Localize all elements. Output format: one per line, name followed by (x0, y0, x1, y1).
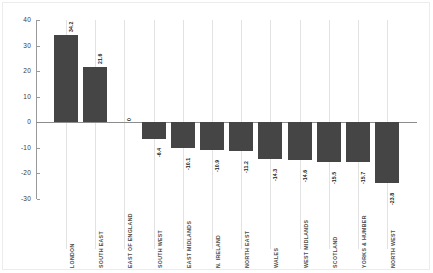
bar-value-label: -11.2 (243, 161, 249, 173)
y-axis-tick-label: -30 (9, 195, 31, 202)
category-label: NORTH EAST (244, 231, 250, 268)
plot-area (36, 20, 429, 199)
category-label: SOUTH WEST (157, 230, 163, 268)
y-axis-tick-label: -10 (9, 144, 31, 151)
y-axis-tick-label: 30 (9, 42, 31, 49)
bar (83, 67, 107, 122)
bar-value-label: -23.8 (389, 193, 395, 205)
bar-value-label: -6.4 (156, 148, 162, 157)
bar-chart: 403020100-10-20-30 34.221.60-6.4-10.1-10… (0, 0, 433, 273)
category-label: LONDON (69, 243, 75, 268)
y-axis-tick-label: 40 (9, 16, 31, 23)
bar (229, 122, 253, 151)
category-label: WEST MIDLANDS (303, 220, 309, 268)
category-label: SOUTH EAST (98, 231, 104, 268)
y-axis-tick-label: 10 (9, 93, 31, 100)
bar (142, 122, 166, 138)
category-label: EAST MIDLANDS (186, 221, 192, 268)
bar (258, 122, 282, 159)
bar-value-label: -10.1 (185, 158, 191, 170)
gridline (124, 20, 125, 249)
y-axis-tick-mark (37, 199, 40, 200)
bar-value-label: 34.2 (68, 21, 74, 32)
bar-value-label: -15.5 (331, 172, 337, 184)
y-axis-tick-label: -20 (9, 169, 31, 176)
bar-value-label: 0 (126, 118, 132, 121)
category-label: NORTH WEST (390, 230, 396, 268)
bar (288, 122, 312, 159)
category-label: SCOTLAND (332, 236, 338, 268)
bar (317, 122, 341, 162)
bar-value-label: -15.7 (360, 172, 366, 184)
category-label: N. IRELAND (215, 235, 221, 268)
category-label: WALES (273, 248, 279, 268)
bar (54, 35, 78, 122)
y-axis-tick-label: 0 (9, 118, 31, 125)
category-label: EAST OF ENGLAND (127, 213, 133, 268)
bar-value-label: -14.6 (302, 169, 308, 181)
category-label: YORKS & HUMBER (361, 215, 367, 268)
bar (171, 122, 195, 148)
bar (375, 122, 399, 183)
bar-value-label: 21.6 (97, 54, 103, 65)
bar (200, 122, 224, 150)
bar (346, 122, 370, 162)
bar-value-label: -10.9 (214, 160, 220, 172)
bar-value-label: -14.3 (272, 169, 278, 181)
gridline (95, 20, 96, 249)
y-axis-tick-label: 20 (9, 67, 31, 74)
